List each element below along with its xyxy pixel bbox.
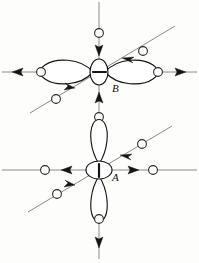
node-diagonal-ne-B [139, 47, 148, 56]
node-top-B [95, 29, 104, 38]
node-diagonal-ne-A [138, 140, 147, 149]
node-diagonal-sw-A [53, 190, 62, 199]
node-left-A [41, 166, 50, 175]
orbital-interaction-diagram: B A [0, 0, 199, 263]
node-right-B [154, 68, 163, 77]
node-bottom-A [95, 215, 104, 224]
atom-label-B: B [112, 82, 119, 94]
figure-root: B A [0, 0, 199, 263]
node-left-B [37, 68, 46, 77]
node-right-A [149, 166, 158, 175]
atom-label-A: A [111, 171, 119, 183]
node-diagonal-sw-B [52, 95, 61, 104]
